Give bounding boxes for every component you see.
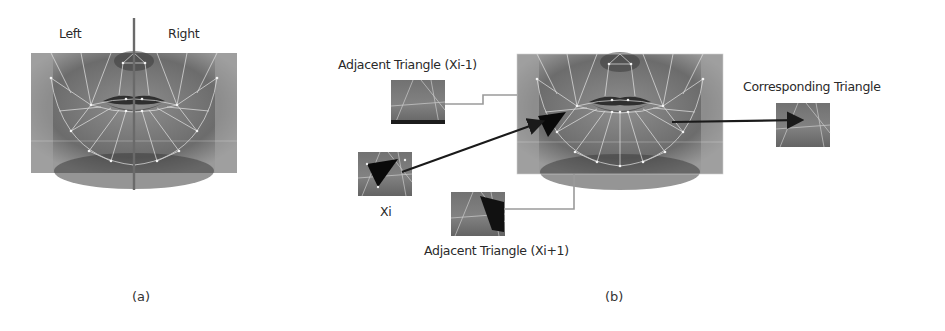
right-label: Right (168, 26, 199, 41)
adjacent-triangle-next-patch (451, 192, 505, 236)
left-label: Left (59, 26, 81, 41)
adjacent-prev-title: Adjacent Triangle (338, 57, 441, 72)
corresponding-triangle-patch (776, 103, 830, 147)
adjacent-next-title: Adjacent Triangle (424, 243, 527, 258)
caption-a: (a) (132, 289, 150, 304)
xi-label: Xi (380, 204, 391, 219)
adjacent-triangle-prev-patch (391, 80, 445, 124)
adjacent-next-index: (Xi+1) (530, 243, 568, 258)
figure-canvas (0, 0, 945, 331)
adjacent-prev-index: (Xi-1) (444, 57, 476, 72)
corresponding-label: Corresponding Triangle (743, 79, 881, 94)
caption-b: (b) (605, 289, 623, 304)
adjacent-prev-label: Adjacent Triangle (Xi-1) (338, 57, 477, 72)
current-triangle-xi-patch (358, 152, 412, 196)
adjacent-next-label: Adjacent Triangle (Xi+1) (424, 243, 569, 258)
connector-prev (445, 95, 517, 104)
